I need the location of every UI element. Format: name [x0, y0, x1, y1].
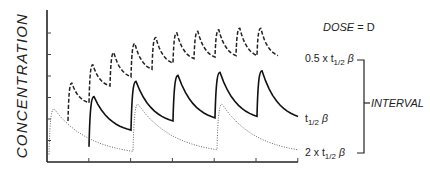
axes	[47, 10, 298, 162]
dose-annotation: DOSE = D	[323, 21, 375, 33]
legend-label-double-halflife: 2 x t1/2 β	[305, 146, 345, 161]
interval-label: INTERVAL	[371, 97, 424, 109]
legend-label-halflife: t1/2 β	[305, 112, 328, 127]
interval-bracket	[357, 60, 370, 153]
y-axis-label: CONCENTRATION	[4, 10, 40, 160]
series-halflife-solid	[89, 71, 298, 147]
legend-label-half-halflife: 0.5 x t1/2 β	[305, 52, 354, 67]
